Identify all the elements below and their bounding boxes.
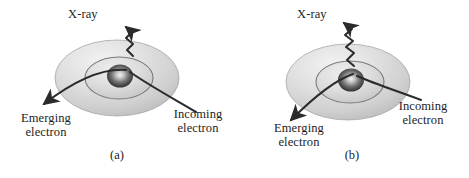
incoming-electron-label-a: Incoming electron bbox=[160, 108, 236, 135]
xray-label-a: X-ray bbox=[68, 8, 98, 22]
emerging-electron-label-a-line1: Emerging bbox=[21, 111, 71, 125]
emerging-electron-label-b: Emerging electron bbox=[257, 122, 341, 149]
nucleus bbox=[107, 65, 133, 88]
xray-label-b: X-ray bbox=[297, 8, 327, 22]
panel-a: X-ray Emerging electron Incoming electro… bbox=[0, 0, 234, 178]
panel-a-caption: (a) bbox=[0, 148, 234, 163]
emerging-electron-label-a-line2: electron bbox=[4, 126, 88, 140]
xray-bremsstrahlung-figure: X-ray Emerging electron Incoming electro… bbox=[0, 0, 469, 178]
panel-b: X-ray Emerging electron Incoming electro… bbox=[235, 0, 469, 178]
incoming-electron-label-a-line1: Incoming bbox=[174, 107, 223, 121]
emerging-electron-label-b-line2: electron bbox=[257, 136, 341, 150]
incoming-electron-label-b: Incoming electron bbox=[383, 100, 463, 127]
emerging-electron-label-a: Emerging electron bbox=[4, 112, 88, 139]
panel-b-caption: (b) bbox=[235, 148, 469, 163]
emerging-electron-label-b-line1: Emerging bbox=[274, 121, 324, 135]
incoming-electron-label-b-line1: Incoming bbox=[399, 99, 448, 113]
xray-label-b-text: X-ray bbox=[297, 7, 327, 21]
incoming-electron-label-a-line2: electron bbox=[160, 122, 236, 136]
xray-label-a-text: X-ray bbox=[68, 7, 98, 21]
incoming-electron-label-b-line2: electron bbox=[383, 114, 463, 128]
